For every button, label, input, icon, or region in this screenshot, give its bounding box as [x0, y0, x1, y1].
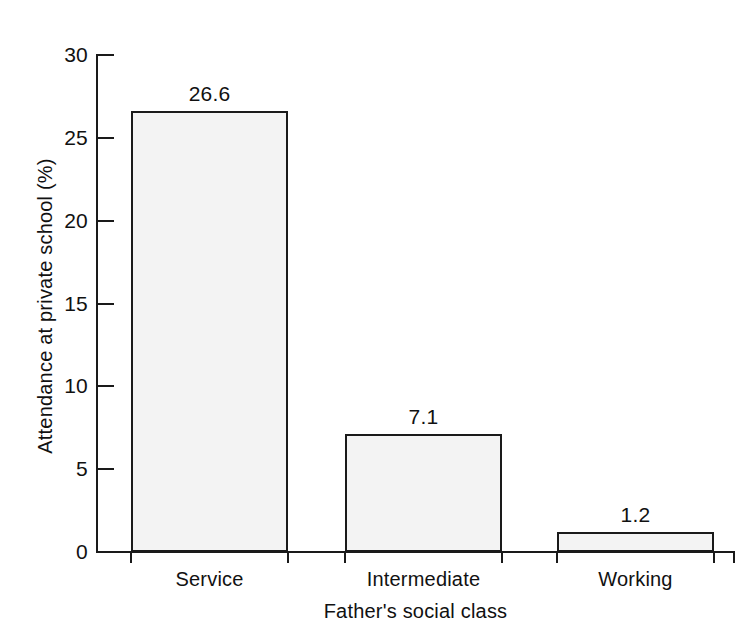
bar-value-label: 7.1 — [345, 406, 502, 427]
y-axis-tick — [98, 220, 114, 222]
y-axis-tick — [98, 137, 114, 139]
bar-chart-figure: 051015202530 Attendance at private schoo… — [0, 0, 756, 644]
bar — [345, 434, 502, 552]
bar-value-label: 26.6 — [131, 83, 288, 104]
x-axis-tick — [556, 553, 558, 563]
x-axis-category-label: Working — [557, 568, 714, 590]
x-axis-category-label: Intermediate — [345, 568, 502, 590]
bar-value-label: 1.2 — [557, 504, 714, 525]
y-axis-tick — [98, 303, 114, 305]
y-axis-tick — [98, 385, 114, 387]
y-axis-tick — [98, 54, 114, 56]
x-axis-tick — [733, 553, 735, 563]
x-axis-line — [96, 551, 735, 553]
y-axis-tick — [98, 468, 114, 470]
x-axis-tick — [130, 553, 132, 563]
x-axis-category-label: Service — [131, 568, 288, 590]
y-axis-title: Attendance at private school (%) — [35, 46, 55, 566]
x-axis-title: Father's social class — [96, 600, 735, 622]
x-axis-tick — [287, 553, 289, 563]
x-axis-tick — [344, 553, 346, 563]
bar — [131, 111, 288, 552]
x-axis-tick — [713, 553, 715, 563]
bar — [557, 532, 714, 552]
x-axis-tick — [501, 553, 503, 563]
